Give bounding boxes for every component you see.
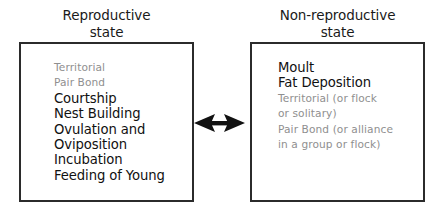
list-item: Incubation	[54, 152, 186, 167]
list-item: Pair Bond	[54, 75, 186, 90]
list-item: Territorial	[54, 60, 186, 75]
list-item: Moult	[278, 60, 417, 75]
state-box-reproductive: Territorial Pair Bond Courtship Nest Bui…	[19, 42, 194, 202]
item-list-non-reproductive: Moult Fat Deposition Territorial (or flo…	[278, 60, 417, 152]
panel-title-reproductive: Reproductive state	[19, 7, 194, 41]
diagram-canvas: Reproductive state Territorial Pair Bond…	[0, 0, 437, 218]
list-item: Ovulation and	[54, 122, 186, 137]
item-list-reproductive: Territorial Pair Bond Courtship Nest Bui…	[54, 60, 186, 183]
list-item: Pair Bond (or alliance in a group or flo…	[278, 122, 417, 153]
list-item: Fat Deposition	[278, 75, 417, 90]
double-headed-arrow-icon	[194, 109, 245, 137]
list-item: Courtship	[54, 91, 186, 106]
list-item: Oviposition	[54, 137, 186, 152]
list-item: Territorial (or flock or solitary)	[278, 91, 417, 122]
list-item: Feeding of Young	[54, 168, 186, 183]
panel-title-non-reproductive: Non-reproductive state	[250, 7, 425, 41]
state-box-non-reproductive: Moult Fat Deposition Territorial (or flo…	[250, 42, 425, 202]
list-item: Nest Building	[54, 106, 186, 121]
